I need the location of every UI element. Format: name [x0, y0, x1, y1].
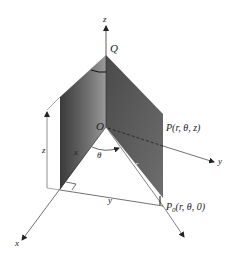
cylindrical-coordinates-diagram: z Q O P(r, θ, z) y x z x θ r y P0(r, θ, …: [0, 0, 232, 254]
y-component-label: y: [107, 195, 112, 205]
x-axis-label: x: [14, 238, 19, 248]
height-label: z: [41, 145, 46, 155]
theta-label: θ: [97, 150, 102, 160]
point-o-label: O: [96, 120, 104, 132]
y-axis-label: y: [217, 156, 222, 166]
point-p-label: P(r, θ, z): [165, 122, 201, 134]
point-p0-label: P0(r, θ, 0): [165, 201, 206, 214]
p0-coords: (r, θ, 0): [176, 201, 206, 213]
p0-letter: P: [165, 201, 172, 212]
y-axis: [163, 146, 214, 162]
point-q-label: Q: [110, 42, 118, 54]
height-dimension-bottom: [47, 188, 60, 190]
height-dimension-top: [47, 97, 60, 110]
x-component-label: x: [73, 147, 78, 157]
z-axis-label: z: [102, 14, 107, 24]
radius-label: r: [135, 159, 139, 169]
